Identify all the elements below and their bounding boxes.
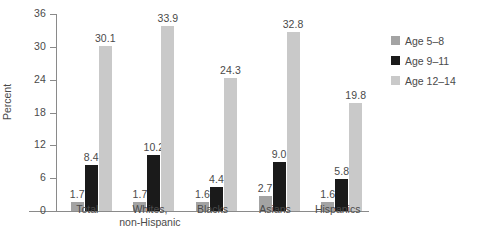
legend-label: Age 9–11 (405, 55, 449, 67)
bar-value-label: 19.8 (345, 89, 366, 101)
plot-area: 1.78.430.11.710.233.91.64.424.32.79.032.… (56, 14, 369, 211)
y-axis-tick-label: 6 (0, 171, 46, 183)
bar-value-label: 30.1 (95, 32, 116, 44)
bar[interactable]: 19.8 (349, 103, 362, 211)
y-axis-tick-label: 12 (0, 138, 46, 150)
legend-swatch-icon (391, 56, 400, 65)
bar[interactable]: 33.9 (161, 26, 174, 212)
bar-value-label: 5.8 (334, 165, 349, 177)
y-axis-tick-label: 0 (0, 204, 46, 216)
legend-label: Age 5–8 (405, 35, 444, 47)
bar[interactable]: 24.3 (224, 78, 237, 211)
legend-swatch-icon (391, 76, 400, 85)
legend-item[interactable]: Age 9–11 (391, 52, 475, 69)
bar-value-label: 1.7 (70, 188, 85, 200)
bar-group: 1.65.819.8 (321, 14, 362, 211)
bar-group: 1.78.430.1 (71, 14, 112, 211)
bar-value-label: 8.4 (84, 151, 99, 163)
legend-swatch-icon (391, 36, 400, 45)
y-axis-tick-label: 24 (0, 73, 46, 85)
bar-value-label: 9.0 (272, 148, 287, 160)
bar-chart: 061218243036 Percent 1.78.430.11.710.233… (0, 0, 478, 246)
bar-value-label: 2.7 (258, 182, 273, 194)
bar-value-label: 1.6 (320, 188, 335, 200)
bar-value-label: 33.9 (157, 12, 178, 24)
bar-group: 1.64.424.3 (196, 14, 237, 211)
bar-value-label: 32.8 (283, 18, 304, 30)
bar-value-label: 4.4 (209, 173, 224, 185)
bar-value-label: 24.3 (220, 64, 241, 76)
bar[interactable]: 30.1 (99, 46, 112, 211)
bar-group: 2.79.032.8 (259, 14, 300, 211)
bar-group: 1.710.233.9 (133, 14, 174, 211)
y-axis-label: Percent (1, 84, 13, 120)
legend-item[interactable]: Age 5–8 (391, 32, 475, 49)
bar[interactable]: 32.8 (287, 32, 300, 211)
x-axis-category-label: Hispanics (292, 203, 383, 216)
legend-label: Age 12–14 (405, 75, 456, 87)
bar-value-label: 1.6 (195, 188, 210, 200)
legend-item[interactable]: Age 12–14 (391, 72, 475, 89)
y-axis-tick-label: 36 (0, 7, 46, 19)
y-axis-tick-label: 30 (0, 40, 46, 52)
bar-value-label: 1.7 (132, 188, 147, 200)
chart-legend: Age 5–8Age 9–11Age 12–14 (391, 32, 475, 92)
